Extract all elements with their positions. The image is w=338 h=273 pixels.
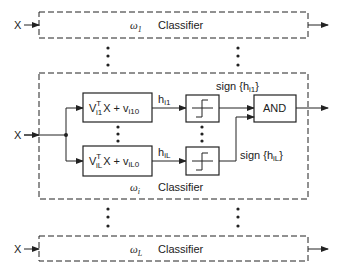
input-x-label: X	[14, 19, 22, 31]
classifier-block-diagram: X ω1 Classifier X VTi1X + vi10 hi1 sign …	[0, 0, 338, 273]
omega-symbol: ωi	[130, 181, 140, 196]
branch-lower	[66, 135, 83, 161]
classifier-1: X ω1 Classifier	[14, 12, 328, 38]
classifier-i-label: Classifier	[158, 181, 204, 193]
classifier-i: X VTi1X + vi10 hi1 sign {hi1} AND VTi	[14, 73, 328, 199]
ellipsis-dots-inner	[116, 125, 203, 142]
input-x-label: X	[14, 243, 22, 255]
classifier-L: X ωL Classifier	[14, 236, 328, 261]
h-upper-label: hi1	[158, 93, 171, 107]
sign-upper-label: sign {hi1}	[216, 80, 259, 94]
omega-symbol: ω1	[130, 19, 142, 34]
input-x-label: X	[14, 129, 22, 141]
and-label: AND	[263, 102, 286, 114]
classifier-L-label: Classifier	[158, 243, 204, 255]
omega-symbol: ωL	[130, 243, 143, 258]
ellipsis-dots-top	[106, 46, 239, 66]
h-lower-label: hiL	[158, 146, 171, 160]
sign-lower-label: sign {hiL}	[240, 149, 283, 163]
branch-upper	[66, 108, 83, 135]
classifier-1-label: Classifier	[158, 19, 204, 31]
ellipsis-dots-bottom	[106, 207, 239, 227]
